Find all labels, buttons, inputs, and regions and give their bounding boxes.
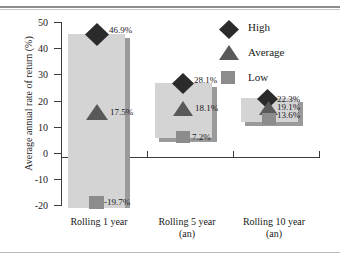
category-boundary-tick [233,151,234,158]
bar-shadow-rolling-5-year [212,87,217,142]
low-marker-rolling-1-year [88,195,105,210]
x-axis-label-rolling-10-year: Rolling 10 year (an) [219,216,329,240]
legend-label-high: High [248,21,270,34]
square-marker-icon [218,69,240,89]
average-marker-rolling-5-year [172,100,194,117]
average-value-label-rolling-5-year: 18.1% [195,104,218,113]
high-value-label-rolling-1-year: 46.9% [109,26,132,35]
y-axis-tick-label: -20 [4,201,48,211]
y-axis-tick [54,101,62,102]
x-axis-label-line: (an) [219,228,329,240]
y-axis-tick [54,22,62,23]
y-axis-title: Average annual rate of return (%) [23,29,34,179]
low-marker-rolling-10-year [261,112,277,126]
triangle-marker-icon [218,44,240,64]
low-value-label-rolling-1-year: -19.7% [104,198,130,207]
average-value-label-rolling-1-year: 17.5% [110,108,133,117]
legend-label-low: Low [248,71,268,84]
y-axis-tick-label: 50 [4,18,48,28]
figure-top-rule-secondary [0,9,340,10]
high-value-label-rolling-5-year: 28.1% [194,76,217,85]
x-axis-label-line: Rolling 10 year [219,216,329,228]
y-axis-tick [54,205,62,206]
y-axis-tick [54,74,62,75]
chart-legend: High Average Low [218,18,328,93]
low-value-label-rolling-5-year: 7.2% [192,133,211,142]
legend-item-low: Low [218,68,328,93]
category-boundary-tick [147,151,148,158]
figure-bottom-rule [0,252,340,253]
legend-item-high: High [218,18,328,43]
high-marker-rolling-5-year [171,72,195,95]
high-marker-rolling-1-year [84,22,110,47]
bar-shadow-rolling-1-year [125,38,130,208]
y-axis-tick [54,127,62,128]
category-boundary-tick [319,151,320,158]
legend-item-average: Average [218,43,328,68]
figure-top-rule [0,6,340,8]
bar-rolling-1-year [68,34,125,208]
chart-figure: 50 40 30 20 10 0 -10 -20 Average annual … [0,0,340,257]
low-marker-rolling-5-year [175,130,191,144]
average-marker-rolling-1-year [85,103,109,121]
y-axis-tick [54,179,62,180]
low-value-label-rolling-10-year: 13.6% [277,111,300,120]
y-axis-tick [54,48,62,49]
legend-label-average: Average [248,46,284,59]
diamond-marker-icon [218,19,240,39]
y-axis-tick [54,153,62,154]
